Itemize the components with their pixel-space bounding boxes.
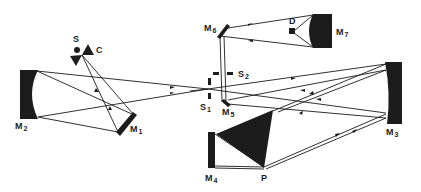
mirror-M7 (309, 14, 332, 48)
label-M4: M4 (205, 174, 217, 184)
label-P: P (261, 174, 267, 183)
label-M1: M1 (130, 125, 142, 135)
label-M5: M5 (222, 108, 234, 118)
label-M2: M2 (15, 122, 27, 132)
slit-S2 (213, 72, 233, 75)
mirror-M4 (208, 132, 215, 168)
label-M3: M3 (386, 128, 398, 138)
label-D: D (289, 17, 296, 26)
label-C: C (96, 46, 103, 55)
label-M6: M6 (204, 24, 216, 34)
detector-D (289, 28, 295, 34)
label-M7: M7 (336, 28, 348, 38)
label-S: S (73, 35, 79, 44)
prism-P (216, 110, 273, 168)
label-S2: S2 (238, 70, 249, 80)
mirror-M3 (385, 62, 402, 124)
mirror-M2 (20, 70, 38, 119)
chopper-C-blade (82, 44, 94, 55)
label-S1: S1 (200, 103, 211, 113)
source-S (74, 47, 80, 53)
chopper-C (70, 55, 82, 66)
